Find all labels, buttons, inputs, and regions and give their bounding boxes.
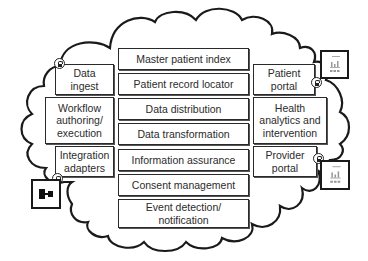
information-assurance-box: Information assurance (118, 149, 249, 171)
box-label: Data distribution (146, 103, 222, 116)
chart-glyph-icon (322, 162, 348, 188)
master-patient-index-box: Master patient index (118, 48, 249, 70)
box-label: Event detection/ notification (146, 201, 221, 226)
box-label: Integration adapters (60, 149, 110, 174)
box-label: Workflow authoring/ execution (56, 102, 103, 140)
box-label: Data ingest (70, 67, 98, 92)
box-label: Data transformation (137, 128, 229, 141)
dashboard-tile-icon (320, 160, 350, 190)
chart-glyph-icon (322, 52, 347, 77)
box-label: Patient record locator (134, 78, 234, 91)
data-transformation-box: Data transformation (118, 123, 249, 145)
health-analytics-box: Health analytics and intervention (253, 97, 327, 144)
consent-management-box: Consent management (118, 174, 249, 196)
provider-portal-box: Provider portal (253, 146, 317, 177)
box-label: Health analytics and intervention (259, 102, 320, 140)
workflow-box: Workflow authoring/ execution (45, 97, 114, 144)
connector-glyph-icon (33, 181, 59, 207)
lock-icon (54, 58, 65, 69)
event-detection-box: Event detection/ notification (118, 199, 249, 228)
data-ingest-box: Data ingest (55, 64, 114, 95)
box-label: Consent management (132, 179, 235, 192)
data-distribution-box: Data distribution (118, 98, 249, 120)
dashboard-tile-icon (320, 50, 349, 79)
box-label: Provider portal (265, 149, 304, 174)
integration-connector-icon (31, 179, 61, 209)
box-label: Patient portal (268, 67, 301, 92)
box-label: Information assurance (132, 154, 236, 167)
patient-portal-box: Patient portal (253, 64, 315, 95)
integration-adapters-box: Integration adapters (55, 146, 114, 177)
box-label: Master patient index (136, 53, 231, 66)
patient-record-locator-box: Patient record locator (118, 73, 249, 95)
